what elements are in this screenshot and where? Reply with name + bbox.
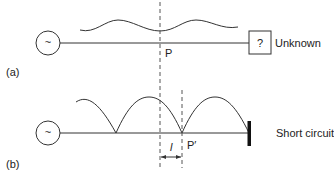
short-circuit-label: Short circuit: [276, 127, 334, 139]
short-circuit-bar: [248, 121, 252, 146]
panel-b: ~ Short circuit P′ l (b): [6, 90, 334, 170]
distance-arrow: [161, 155, 181, 159]
source-a-symbol: ~: [45, 36, 51, 48]
standing-wave-a: [80, 20, 238, 31]
panel-a: ~ ? Unknown P (a): [6, 20, 321, 78]
panel-b-label: (b): [6, 158, 19, 170]
transmission-line-diagram: ~ ? Unknown P (a) ~ Short circuit P′ l (…: [0, 0, 334, 180]
distance-label: l: [170, 141, 173, 153]
unknown-load-label: Unknown: [275, 37, 321, 49]
panel-a-label: (a): [6, 66, 19, 78]
standing-wave-b: [76, 97, 249, 133]
point-p-label: P: [165, 47, 172, 59]
unknown-load-symbol: ?: [257, 37, 263, 49]
point-p-prime-label: P′: [187, 139, 196, 151]
source-b-symbol: ~: [45, 126, 51, 138]
